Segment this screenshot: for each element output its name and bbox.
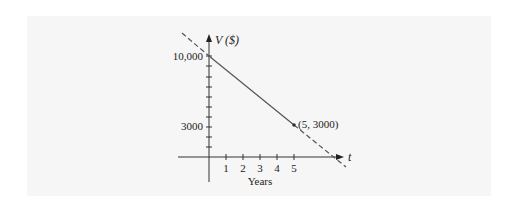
x-tick-label-2: 2 [240, 162, 246, 174]
x-tick-label-5: 5 [291, 162, 297, 174]
y-axis-arrow-icon [206, 34, 212, 42]
line-extension-right [294, 125, 346, 167]
x-axis-title: Years [248, 175, 273, 187]
line-segment [209, 56, 294, 125]
x-axis-variable: t [348, 150, 352, 164]
y-tick-label-3000: 3000 [181, 120, 204, 132]
x-tick-label-1: 1 [223, 162, 229, 174]
y-axis-label: V ($) [215, 33, 239, 47]
x-axis-arrow-icon [336, 154, 344, 160]
data-point [292, 123, 296, 127]
y-tick-label-10000: 10,000 [173, 50, 204, 62]
point-annotation: (5, 3000) [298, 118, 339, 131]
x-tick-label-4: 4 [274, 162, 280, 174]
depreciation-chart: V ($) t 10,000 3000 (5, 3000) 1 2 3 4 5 … [0, 0, 515, 210]
x-tick-label-3: 3 [257, 162, 263, 174]
